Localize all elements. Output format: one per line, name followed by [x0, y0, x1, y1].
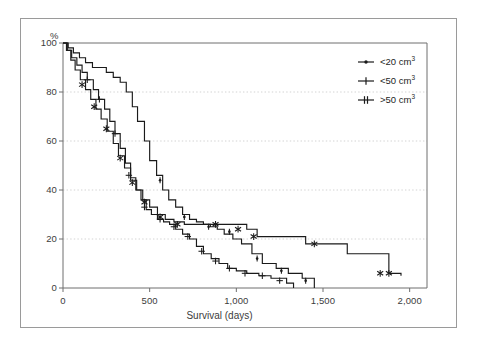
x-tick-label-1000: 1,000: [206, 295, 266, 306]
x-tick-label-1500: 1,500: [293, 295, 353, 306]
survival-curve-series-1: [63, 43, 294, 288]
x-axis-title-text: Survival (days): [186, 310, 252, 321]
censor-mark-series-0: [159, 177, 162, 183]
y-tick-label-80: 80: [21, 86, 57, 97]
legend-marker-dot-dash-icon: [356, 55, 376, 69]
y-tick-label-0: 0: [21, 282, 57, 293]
y-tick-label-40: 40: [21, 184, 57, 195]
legend-label-0: <20 cm3: [380, 56, 415, 67]
legend-marker-plus-icon: [356, 74, 376, 88]
chart-legend: <20 cm3<50 cm3>50 cm3: [356, 52, 415, 109]
censor-mark-series-1: [96, 96, 102, 102]
censor-mark-series-1: [259, 273, 265, 279]
y-tick-label-100: 100: [21, 37, 57, 48]
censor-mark-series-2: [235, 226, 241, 233]
figure-container: % 02040608010005001,0001,5002,000 Surviv…: [0, 0, 479, 348]
x-axis-title: Survival (days): [0, 310, 479, 321]
legend-marker-asterisk-icon: [356, 93, 376, 107]
x-tick-label-0: 0: [33, 295, 93, 306]
censor-mark-series-0: [256, 256, 259, 262]
censor-mark-series-2: [79, 81, 85, 88]
survival-curve-series-0: [63, 43, 314, 288]
legend-label-2: >50 cm3: [380, 94, 415, 105]
survival-curve-series-2: [63, 43, 401, 276]
legend-label-1: <50 cm3: [380, 75, 415, 86]
legend-item-1: <50 cm3: [356, 71, 415, 90]
legend-item-2: >50 cm3: [356, 90, 415, 109]
x-tick-label-2000: 2,000: [380, 295, 440, 306]
y-tick-label-20: 20: [21, 233, 57, 244]
x-tick-label-500: 500: [120, 295, 180, 306]
censor-mark-series-2: [377, 270, 383, 277]
y-tick-label-60: 60: [21, 135, 57, 146]
legend-item-0: <20 cm3: [356, 52, 415, 71]
